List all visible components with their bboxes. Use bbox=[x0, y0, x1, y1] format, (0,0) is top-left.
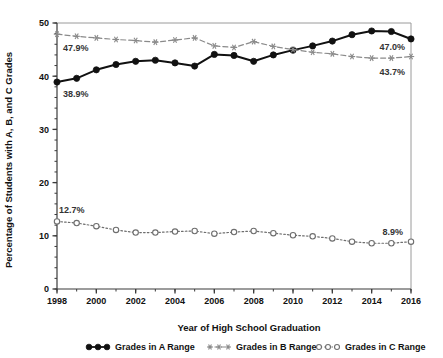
x-tick-label: 2000 bbox=[86, 296, 106, 306]
marker-open-circle bbox=[310, 234, 315, 239]
chart-legend: Grades in A RangeGrades in B RangeGrades… bbox=[86, 342, 425, 352]
marker-filled-circle bbox=[270, 52, 276, 58]
annotation-a-start: 38.9% bbox=[63, 89, 89, 99]
legend-label: Grades in A Range bbox=[115, 342, 195, 352]
x-tick-label: 2006 bbox=[204, 296, 224, 306]
marker-open-circle bbox=[113, 227, 118, 232]
marker-filled-circle bbox=[104, 344, 110, 350]
x-tick-label: 1998 bbox=[47, 296, 67, 306]
marker-open-circle bbox=[153, 230, 158, 235]
marker-filled-circle bbox=[172, 60, 178, 66]
annotation-b-start: 47.9% bbox=[63, 43, 89, 53]
marker-open-circle bbox=[172, 229, 177, 234]
marker-filled-circle bbox=[113, 61, 119, 67]
marker-open-circle bbox=[251, 228, 256, 233]
y-tick-label: 20 bbox=[39, 178, 49, 188]
legend-label: Grades in B Range bbox=[236, 342, 317, 352]
marker-open-circle bbox=[330, 236, 335, 241]
marker-filled-circle bbox=[408, 36, 414, 42]
x-tick-label: 2014 bbox=[362, 296, 382, 306]
marker-filled-circle bbox=[86, 344, 92, 350]
marker-filled-circle bbox=[192, 63, 198, 69]
marker-filled-circle bbox=[95, 344, 101, 350]
marker-open-circle bbox=[389, 241, 394, 246]
marker-open-circle bbox=[349, 239, 354, 244]
x-tick-label: 2016 bbox=[401, 296, 421, 306]
annotation-a-end: 47.0% bbox=[379, 42, 405, 52]
marker-filled-circle bbox=[54, 79, 60, 85]
x-tick-label: 2004 bbox=[165, 296, 185, 306]
marker-open-circle bbox=[369, 241, 374, 246]
marker-filled-circle bbox=[231, 52, 237, 58]
y-tick-label: 40 bbox=[39, 72, 49, 82]
marker-open-circle bbox=[192, 228, 197, 233]
line-chart: Percentage of Students with A, B, and C … bbox=[0, 0, 443, 358]
marker-filled-circle bbox=[251, 58, 257, 64]
marker-open-circle bbox=[290, 233, 295, 238]
marker-filled-circle bbox=[329, 38, 335, 44]
marker-open-circle bbox=[212, 231, 217, 236]
marker-filled-circle bbox=[211, 51, 217, 57]
marker-filled-circle bbox=[369, 28, 375, 34]
marker-filled-circle bbox=[388, 28, 394, 34]
marker-open-circle bbox=[54, 219, 59, 224]
annotation-c-start: 12.7% bbox=[59, 205, 85, 215]
y-tick-label: 30 bbox=[39, 125, 49, 135]
annotation-c-end: 8.9% bbox=[382, 227, 403, 237]
marker-filled-circle bbox=[152, 57, 158, 63]
marker-open-circle bbox=[94, 224, 99, 229]
marker-open-circle bbox=[326, 345, 331, 350]
x-tick-label: 2012 bbox=[322, 296, 342, 306]
marker-open-circle bbox=[335, 345, 340, 350]
y-tick-label: 0 bbox=[44, 284, 49, 294]
marker-filled-circle bbox=[349, 32, 355, 38]
marker-filled-circle bbox=[310, 43, 316, 49]
x-tick-label: 2008 bbox=[244, 296, 264, 306]
legend-label: Grades in C Range bbox=[345, 342, 426, 352]
marker-open-circle bbox=[317, 345, 322, 350]
x-tick-label: 2002 bbox=[126, 296, 146, 306]
marker-filled-circle bbox=[74, 75, 80, 81]
marker-open-circle bbox=[133, 230, 138, 235]
marker-open-circle bbox=[74, 220, 79, 225]
y-tick-label: 50 bbox=[39, 18, 49, 28]
marker-open-circle bbox=[408, 239, 413, 244]
x-tick-label: 2010 bbox=[283, 296, 303, 306]
marker-filled-circle bbox=[93, 67, 99, 73]
marker-filled-circle bbox=[133, 58, 139, 64]
x-axis-title: Year of High School Graduation bbox=[177, 322, 320, 333]
marker-open-circle bbox=[271, 230, 276, 235]
chart-container: Percentage of Students with A, B, and C … bbox=[0, 0, 443, 358]
y-tick-label: 10 bbox=[39, 231, 49, 241]
y-axis-title: Percentage of Students with A, B, and C … bbox=[3, 52, 14, 268]
annotation-b-end: 43.7% bbox=[379, 67, 405, 77]
marker-open-circle bbox=[231, 229, 236, 234]
